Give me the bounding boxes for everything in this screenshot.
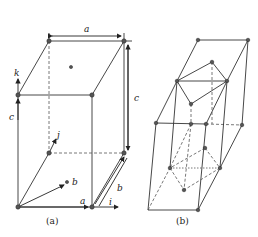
caption-a: (a): [46, 216, 58, 226]
panel-a-unit-cell: a c c k j b a b i (a): [9, 24, 139, 226]
label-c-left: c: [9, 112, 14, 122]
caption-b: (b): [176, 216, 189, 226]
label-j: j: [55, 130, 60, 140]
label-k: k: [14, 68, 19, 78]
label-b-side: b: [117, 183, 123, 193]
label-a-vector: a: [80, 196, 85, 206]
label-b-vector: b: [72, 177, 78, 187]
label-c-right: c: [134, 93, 139, 103]
label-a-top: a: [84, 24, 89, 34]
crystal-lattice-diagram: a c c k j b a b i (a): [0, 0, 258, 237]
label-i: i: [109, 197, 112, 207]
panel-b-lattice: (b): [148, 38, 250, 226]
